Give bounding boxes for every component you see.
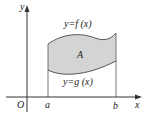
- upper-curve-label: y=f (x): [64, 19, 92, 29]
- bound-b-label: b: [113, 101, 118, 111]
- region-label: A: [77, 50, 83, 60]
- bound-a-label: a: [45, 100, 50, 110]
- y-axis-arrow-icon: [25, 5, 30, 12]
- x-axis-label: x: [135, 100, 139, 110]
- origin-label: O: [17, 100, 24, 110]
- area-between-curves-diagram: y x O a b y=f (x) y=g (x) A: [0, 0, 147, 130]
- lower-curve-label: y=g (x): [63, 77, 93, 87]
- y-axis-label: y: [20, 2, 24, 12]
